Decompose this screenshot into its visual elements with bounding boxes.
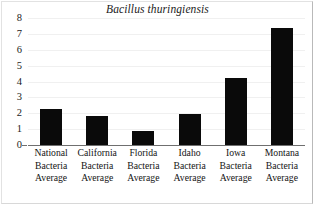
category-label-line: California	[74, 147, 120, 160]
category-label-line: Average	[259, 172, 305, 185]
y-axis-tick-label: 7	[17, 29, 22, 40]
y-axis-tick-label: 3	[17, 92, 22, 103]
y-axis-tick-label: 2	[17, 108, 22, 119]
category-label-line: Bacteria	[167, 160, 213, 173]
category-label-line: Idaho	[167, 147, 213, 160]
bar-series	[28, 18, 305, 145]
plot-area: 012345678	[28, 18, 305, 145]
bacillus-thuringiensis-bar-chart: Bacillus thuringiensis 012345678 Nationa…	[0, 0, 315, 206]
x-axis-category-label: CaliforniaBacteriaAverage	[74, 147, 120, 185]
category-label-line: Average	[167, 172, 213, 185]
category-label-line: Average	[120, 172, 166, 185]
category-label-line: Iowa	[213, 147, 259, 160]
category-label-line: Bacteria	[28, 160, 74, 173]
x-axis-category-label: MontanaBacteriaAverage	[259, 147, 305, 185]
y-axis-tick-label: 5	[17, 60, 22, 71]
x-axis-category-labels: NationalBacteriaAverageCaliforniaBacteri…	[28, 147, 305, 203]
x-axis-category-label: IdahoBacteriaAverage	[167, 147, 213, 185]
chart-title: Bacillus thuringiensis	[0, 3, 315, 15]
bar	[225, 78, 247, 145]
bar	[86, 116, 108, 145]
category-label-line: National	[28, 147, 74, 160]
bar	[271, 28, 293, 145]
category-label-line: Bacteria	[259, 160, 305, 173]
x-axis-category-label: IowaBacteriaAverage	[213, 147, 259, 185]
category-label-line: Average	[74, 172, 120, 185]
y-axis-tick-label: 1	[17, 124, 22, 135]
y-axis-tick-label: 6	[17, 45, 22, 56]
category-label-line: Average	[28, 172, 74, 185]
x-axis-category-label: FloridaBacteriaAverage	[120, 147, 166, 185]
category-label-line: Bacteria	[213, 160, 259, 173]
zero-tick-mark	[22, 145, 27, 146]
bar	[132, 131, 154, 145]
category-label-line: Montana	[259, 147, 305, 160]
category-label-line: Florida	[120, 147, 166, 160]
bar	[179, 114, 201, 145]
bar	[40, 109, 62, 145]
x-axis-category-label: NationalBacteriaAverage	[28, 147, 74, 185]
category-label-line: Bacteria	[74, 160, 120, 173]
category-label-line: Average	[213, 172, 259, 185]
y-axis-tick-label: 8	[17, 13, 22, 24]
axis-baseline	[28, 145, 305, 146]
y-axis-tick-label: 4	[17, 76, 22, 87]
category-label-line: Bacteria	[120, 160, 166, 173]
